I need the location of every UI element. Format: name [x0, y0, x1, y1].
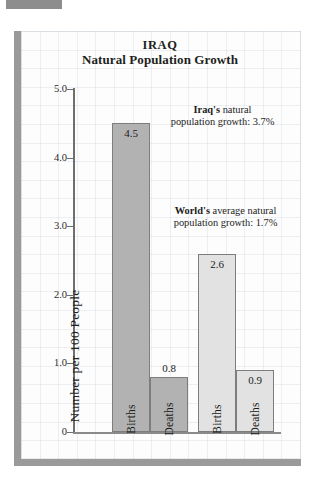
- chart-title: IRAQ: [40, 38, 280, 52]
- y-tick-group: 0: [22, 427, 67, 437]
- y-tick-label: 0: [27, 427, 67, 437]
- bar-category-holder: Deaths: [151, 371, 187, 427]
- y-tick-mark: [67, 89, 73, 90]
- chart-subtitle: Natural Population Growth: [40, 52, 280, 67]
- bar-world-deaths[interactable]: 0.9 Deaths: [236, 370, 274, 432]
- annotation-line-1-rest: natural: [220, 104, 251, 115]
- annotation-bold-lead: Iraq's: [193, 104, 220, 115]
- bar-category-holder: Births: [199, 371, 235, 427]
- bar-iraq-deaths[interactable]: 0.8 Deaths: [150, 377, 188, 432]
- annotation-bold-lead: World's: [175, 205, 210, 216]
- bar-category-label: Births: [211, 404, 223, 433]
- y-tick-group: 5.0: [22, 84, 67, 94]
- y-tick-mark: [67, 226, 73, 227]
- annotation-world-growth: World's average natural population growt…: [148, 205, 303, 228]
- annotation-line-2: population growth: 3.7%: [150, 116, 295, 128]
- page-frame-left-edge: [14, 31, 21, 466]
- bar-category-holder: Deaths: [237, 371, 273, 427]
- chart-title-block: IRAQ Natural Population Growth: [40, 38, 280, 67]
- y-tick-label: 5.0: [27, 84, 67, 94]
- gray-tab-marker-icon: [6, 0, 62, 9]
- bar-category-label: Births: [125, 404, 137, 433]
- bar-world-births[interactable]: 2.6 Births: [198, 254, 236, 432]
- annotation-line-1: World's average natural: [148, 205, 303, 217]
- bar-value-label: 4.5: [113, 128, 149, 139]
- bar-iraq-births[interactable]: 4.5 Births: [112, 123, 150, 432]
- page-frame-bottom-edge: [14, 459, 301, 466]
- bar-category-label: Deaths: [163, 402, 175, 435]
- y-tick-mark: [67, 158, 73, 159]
- annotation-line-1: Iraq's natural: [150, 104, 295, 116]
- annotation-iraq-growth: Iraq's natural population growth: 3.7%: [150, 104, 295, 127]
- bar-value-label: 2.6: [199, 259, 235, 270]
- bar-category-holder: Births: [113, 371, 149, 427]
- annotation-line-1-rest: average natural: [210, 205, 276, 216]
- scanned-page: IRAQ Natural Population Growth 5.0 4.0 3…: [0, 0, 320, 491]
- y-axis-title-holder: Number per 100 People: [36, 110, 56, 360]
- bar-category-label: Deaths: [249, 402, 261, 435]
- y-axis-title: Number per 100 People: [67, 241, 83, 471]
- annotation-line-2: population growth: 1.7%: [148, 217, 303, 229]
- page-header-fragment: [206, 0, 314, 7]
